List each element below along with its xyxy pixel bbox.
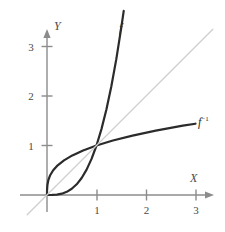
curve-f-inverse: [47, 124, 196, 195]
curve-label-f: f: [119, 22, 122, 34]
y-tick-label-2: 2: [26, 91, 36, 102]
x-tick-label-2: 2: [142, 205, 152, 216]
y-axis-arrowhead: [43, 29, 50, 38]
curves-group: [27, 11, 213, 215]
curve-identity-line: [27, 29, 213, 215]
x-tick-label-3: 3: [191, 205, 201, 216]
y-tick-label-1: 1: [26, 141, 36, 152]
curve-f: [47, 11, 124, 195]
y-axis-label: Y: [54, 20, 61, 32]
plot-canvas: [0, 0, 225, 232]
x-axis-arrowhead: [205, 191, 214, 198]
x-axis-label: X: [190, 172, 197, 184]
x-tick-label-1: 1: [92, 205, 102, 216]
curve-label-f-inverse: f−1: [198, 116, 209, 128]
y-tick-label-3: 3: [26, 42, 36, 53]
f-inverse-exponent: −1: [201, 115, 208, 123]
function-inverse-plot: Y X 1 2 3 1 2 3 f f−1: [0, 0, 225, 232]
